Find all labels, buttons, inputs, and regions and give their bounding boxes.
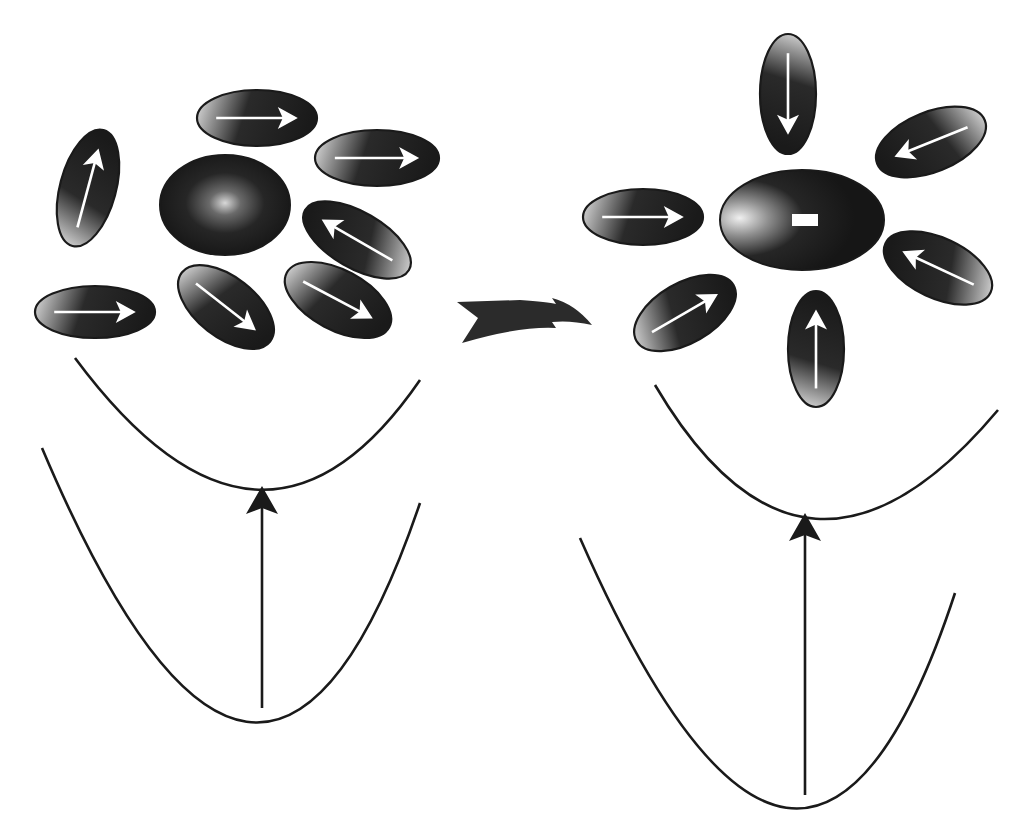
solvent-molecule — [866, 92, 996, 191]
solvent-molecule — [873, 216, 1003, 319]
solvent-molecule — [45, 123, 130, 253]
relaxation-arrow-icon — [457, 298, 592, 343]
ground-state-curve — [42, 448, 420, 723]
solvent-molecule — [163, 249, 288, 365]
excited-state-curve — [75, 358, 420, 490]
solvent-molecule — [583, 189, 703, 245]
solvent-molecule — [315, 130, 439, 186]
solvent-molecule — [760, 34, 816, 154]
negative-charge-icon — [792, 214, 818, 226]
solvent-molecule — [788, 291, 844, 407]
solute-molecule — [160, 155, 290, 255]
solvent-molecule — [197, 90, 317, 146]
solvent-molecule — [35, 286, 155, 338]
diagram-canvas — [0, 0, 1027, 822]
panel-before — [35, 90, 439, 723]
excited-state-curve — [655, 385, 998, 519]
solvation-diagram — [0, 0, 1027, 822]
solvent-molecule — [622, 259, 749, 367]
panel-after — [580, 34, 1003, 809]
ground-state-curve — [580, 538, 955, 809]
